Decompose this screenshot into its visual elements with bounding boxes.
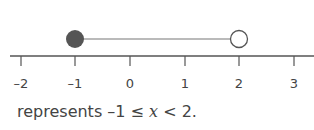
caption-variable: x bbox=[149, 102, 158, 121]
caption-lt: < bbox=[158, 102, 182, 121]
tick-label: –1 bbox=[68, 76, 83, 91]
caption-leq: ≤ bbox=[126, 102, 150, 121]
tick-label: –2 bbox=[14, 76, 29, 91]
tick-label: 0 bbox=[126, 76, 134, 91]
tick-label: 1 bbox=[181, 76, 189, 91]
caption-lower-bound: –1 bbox=[107, 102, 125, 121]
tick-labels: –2 –1 0 1 2 3 bbox=[14, 76, 299, 91]
tick-label: 3 bbox=[290, 76, 298, 91]
ticks bbox=[21, 56, 294, 66]
open-endpoint-dot bbox=[231, 31, 248, 48]
caption: represents –1 ≤ x < 2. bbox=[17, 102, 197, 121]
closed-endpoint-dot bbox=[66, 30, 84, 48]
caption-prefix: represents bbox=[17, 102, 107, 121]
caption-upper-bound: 2. bbox=[182, 102, 197, 121]
tick-label: 2 bbox=[235, 76, 243, 91]
